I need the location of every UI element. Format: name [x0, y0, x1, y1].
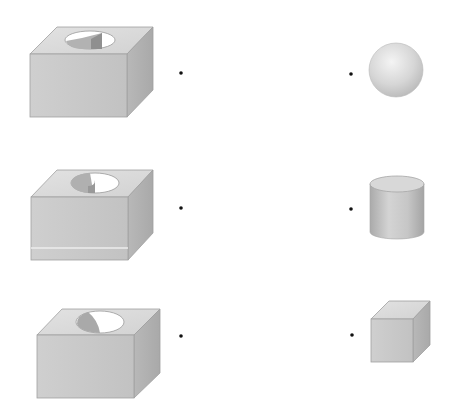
sphere-body: [369, 43, 423, 97]
right-dot-3[interactable]: [350, 333, 354, 337]
box3-front-face: [37, 335, 134, 398]
left-dot-2[interactable]: [179, 206, 183, 210]
sphere: [369, 43, 423, 97]
left-dot-3[interactable]: [179, 334, 183, 338]
cylinder-top: [370, 176, 424, 192]
cube-front-face: [371, 319, 413, 362]
cylinder: [370, 176, 424, 239]
box2-front-face: [31, 197, 128, 260]
box-with-quarter-hole: [30, 27, 153, 117]
right-dot-1[interactable]: [349, 72, 353, 76]
box-with-crescent-hole: [37, 309, 160, 398]
matching-diagram: [0, 0, 450, 417]
cube: [371, 301, 430, 362]
box1-front-face: [30, 54, 127, 117]
right-dot-2[interactable]: [349, 207, 353, 211]
box-with-half-cylinder-hole: [31, 170, 153, 260]
left-dot-1[interactable]: [179, 71, 183, 75]
